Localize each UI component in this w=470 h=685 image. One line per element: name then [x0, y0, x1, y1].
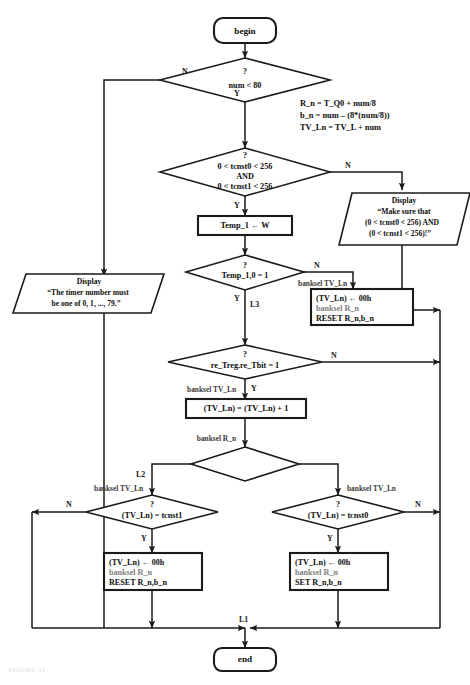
conn-tcnst-no: [330, 172, 402, 190]
branch-tcnst1-no: N: [66, 500, 72, 509]
process-tvln-inc: (TV_Ln) = (TV_Ln) + 1: [186, 399, 306, 418]
make-sure-line-4: (0 < tcnst1 < 256)!”: [369, 229, 431, 238]
reset-top-line-1: (TV_Ln) ← 00h: [316, 294, 372, 303]
decision-tvln-eq-tcnst1: ? (TV_Ln) = tcnst1 N Y banksel TV_Ln: [66, 484, 218, 543]
decision-tcnst-range: ? 0 < tcnst0 < 256 AND 0 < tcnst1 < 256 …: [160, 148, 351, 210]
process-temp-load-label: Temp_1 ← W: [221, 221, 271, 230]
set-right-line-1: (TV_Ln) ← 00h: [295, 558, 351, 567]
branch-tcnst-yes: Y: [234, 201, 240, 210]
annotation-formula: R_n = T_Q0 + num/8 b_n = num – (8*(num/8…: [300, 99, 390, 132]
reset-left-line-3: RESET R_n,b_n: [109, 578, 167, 587]
terminal-end-label: end: [238, 654, 252, 664]
note-banksel-tvln-2: banksel TV_Ln: [187, 385, 236, 394]
decision-tcnst-question: ?: [243, 151, 247, 160]
branch-tcnst-no: N: [345, 161, 351, 170]
decision-re-treg: ? re_Treg.re_Tbit = 1 N Y banksel TV_Ln: [168, 345, 337, 394]
formula-line-2: b_n = num – (8*(num/8)): [300, 111, 390, 120]
branch-tcnst0-yes: Y: [327, 534, 333, 543]
terminal-begin: begin: [214, 18, 276, 43]
branch-num-yes: Y: [234, 89, 240, 98]
decision-tcnst-line-3: 0 < tcnst1 < 256: [218, 182, 273, 191]
note-banksel-tvln-1: banksel TV_Ln: [298, 279, 347, 288]
label-l1: L1: [239, 615, 248, 624]
decision-tcnst0-question: ?: [336, 500, 340, 509]
branch-tcnst0-no: N: [415, 500, 421, 509]
branch-temp-bit-yes: Y: [234, 294, 240, 303]
branch-num-no: N: [182, 67, 188, 76]
decision-tcnst1-question: ?: [150, 500, 154, 509]
branch-temp-bit-no: N: [314, 261, 320, 270]
decision-temp-bit-question: ?: [243, 261, 247, 270]
reset-left-line-2: banksel R_n: [109, 568, 152, 577]
branch-re-treg-no: N: [331, 351, 337, 360]
reset-left-line-1: (TV_Ln) ← 00h: [109, 558, 165, 567]
decision-tvln-eq-tcnst0: ? (TV_Ln) = tcnst0 N Y banksel TV_Ln: [272, 484, 421, 543]
conn-rnbn-yes: [299, 464, 338, 495]
figure-caption: FIGURE 11: [8, 666, 45, 674]
set-right-line-3: SET R_n,b_n: [295, 578, 342, 587]
process-reset-top: (TV_Ln) ← 00h banksel R_n RESET R_n,b_n: [311, 289, 413, 325]
note-banksel-tvln-4: banksel TV_Ln: [347, 484, 396, 493]
process-reset-left: (TV_Ln) ← 00h banksel R_n RESET R_n,b_n: [104, 553, 202, 590]
decision-temp-bit-label: Temp_1,0 = 1: [222, 271, 269, 280]
decision-re-treg-question: ?: [243, 350, 247, 359]
process-set-right: (TV_Ln) ← 00h banksel R_n SET R_n,b_n: [290, 553, 388, 590]
reset-top-line-2: banksel R_n: [316, 304, 359, 313]
timer-number-line-1: Display: [77, 277, 102, 286]
branch-re-treg-yes: Y: [251, 384, 257, 393]
note-banksel-rn: banksel R_n: [197, 434, 236, 443]
process-temp-load: Temp_1 ← W: [198, 216, 292, 235]
timer-number-line-3: be one of 0, 1, ..., 79.”: [52, 299, 121, 308]
make-sure-line-1: Display: [392, 196, 417, 205]
label-l2: L2: [136, 470, 145, 479]
decision-tcnst1-label: (TV_Ln) = tcnst1: [122, 511, 183, 520]
reset-top-line-3: RESET R_n,b_n: [316, 314, 374, 323]
decision-re-treg-label: re_Treg.re_Tbit = 1: [211, 361, 279, 370]
flowchart-svg: begin ? num < 80 N Y R_n = T_Q0 + num/8 …: [0, 0, 470, 685]
formula-line-1: R_n = T_Q0 + num/8: [300, 99, 376, 108]
decision-tcnst-line-2: AND: [236, 172, 254, 181]
make-sure-line-2: “Make sure that: [377, 207, 430, 216]
process-tvln-inc-label: (TV_Ln) = (TV_Ln) + 1: [204, 404, 289, 413]
terminal-end: end: [214, 648, 276, 671]
label-l3: L3: [250, 300, 259, 309]
conn-rnbn-no: [152, 464, 191, 495]
display-make-sure: Display “Make sure that (0 < tcnst0 < 25…: [339, 193, 470, 245]
make-sure-line-3: (0 < tcnst0 < 256) AND: [365, 218, 439, 227]
note-banksel-tvln-3: banksel TV_Ln: [94, 484, 143, 493]
formula-line-3: TV_Ln = TV_L + num: [300, 123, 381, 132]
decision-num-question: ?: [243, 67, 247, 76]
decision-tcnst-line-1: 0 < tcnst0 < 256: [218, 162, 273, 171]
branch-tcnst1-yes: Y: [141, 534, 147, 543]
display-timer-number: Display “The timer number must be one of…: [13, 274, 164, 313]
decision-num-range: ? num < 80 N Y: [160, 58, 330, 102]
terminal-begin-label: begin: [234, 26, 255, 36]
decision-tcnst0-label: (TV_Ln) = tcnst0: [308, 511, 369, 520]
decision-rnbn-zero: banksel R_n L2: [136, 434, 299, 481]
flowchart-canvas: begin ? num < 80 N Y R_n = T_Q0 + num/8 …: [0, 0, 470, 685]
set-right-line-2: banksel R_n: [295, 568, 338, 577]
timer-number-line-2: “The timer number must: [47, 288, 129, 297]
